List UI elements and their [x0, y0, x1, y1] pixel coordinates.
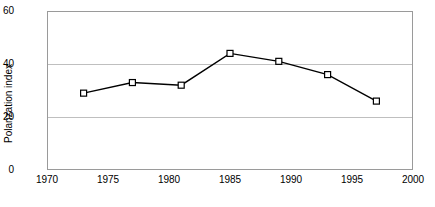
x-tick-label: 1995 [327, 174, 377, 185]
x-tick-label: 1985 [205, 174, 255, 185]
x-tick-label: 1975 [83, 174, 133, 185]
gridline-y-40 [48, 64, 412, 65]
plot-area [47, 11, 413, 170]
x-tick-label: 1970 [22, 174, 72, 185]
line-chart: Polarization index 020406019701975198019… [0, 0, 435, 207]
y-axis-title: Polarization index [0, 0, 16, 207]
x-tick-label: 1990 [266, 174, 316, 185]
x-tick-label: 1980 [144, 174, 194, 185]
y-tick-label: 20 [0, 112, 14, 122]
y-tick-label: 0 [0, 165, 14, 175]
y-tick-label: 60 [0, 6, 14, 16]
y-tick-label: 40 [0, 59, 14, 69]
gridline-y-20 [48, 117, 412, 118]
x-tick-label: 2000 [388, 174, 435, 185]
